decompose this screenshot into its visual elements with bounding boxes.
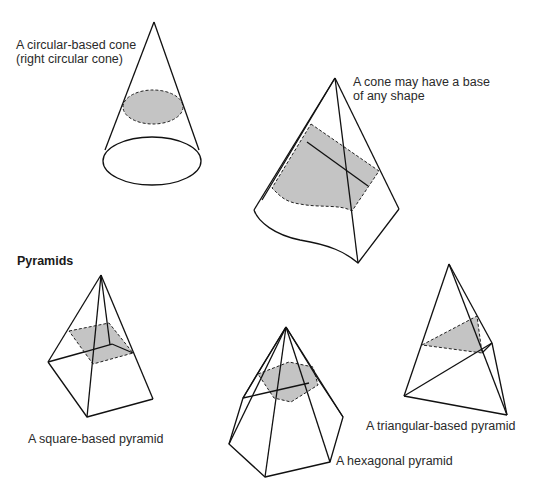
cone-base: [103, 137, 201, 185]
triangular-pyramid: [404, 264, 507, 415]
triangle-cross-section: [422, 316, 482, 353]
triangular-pyramid-caption: A triangular-based pyramid: [366, 419, 515, 433]
hexagonal-pyramid-caption: A hexagonal pyramid: [336, 454, 453, 468]
circular-cone-caption: A circular-based cone (right circular co…: [16, 38, 136, 66]
circular-cone-caption-line1: A circular-based cone: [16, 38, 136, 52]
irregular-cone-base: [254, 209, 399, 263]
square-pyramid: [48, 275, 153, 417]
square-pyramid-caption: A square-based pyramid: [28, 432, 164, 446]
pyramids-heading: Pyramids: [17, 254, 73, 268]
hexagonal-pyramid: [229, 327, 343, 477]
any-base-cone-caption: A cone may have a base of any shape: [353, 75, 490, 103]
any-base-caption-line1: A cone may have a base: [353, 75, 490, 89]
any-base-caption-line2: of any shape: [353, 89, 490, 103]
circular-cone-caption-line2: (right circular cone): [16, 52, 136, 66]
cones-and-pyramids-diagram: A circular-based cone (right circular co…: [0, 0, 541, 497]
cone-cross-section: [123, 90, 183, 124]
irregular-cone-cross-section: [272, 124, 379, 211]
irregular-base-cone: [254, 78, 399, 263]
